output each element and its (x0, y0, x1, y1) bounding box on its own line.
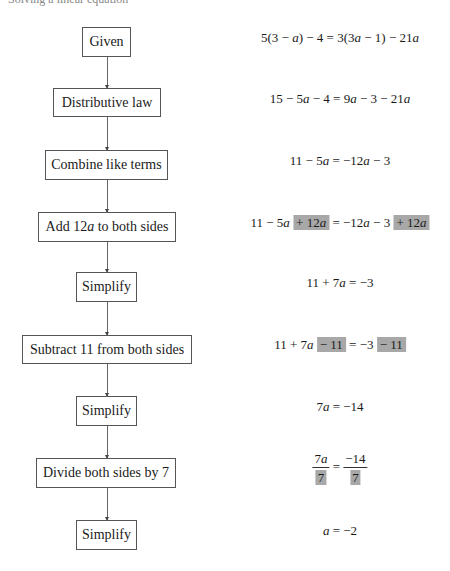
fraction: 7a7 (312, 451, 329, 486)
equation-step-5: 11 + 7a = −3 (306, 275, 373, 291)
step-label: Add 12a to both sides (46, 219, 169, 235)
flow-arrow (107, 488, 108, 520)
flow-arrow (107, 180, 108, 212)
equation-step-6: 11 + 7a − 11 = −3 − 11 (274, 337, 406, 353)
step-box-2: Distributive law (53, 88, 161, 117)
flow-arrow (107, 242, 108, 272)
cropped-header-text: Solving a linear equation (8, 0, 128, 7)
highlighted-term: + 12a (293, 215, 329, 230)
step-label: Simplify (82, 403, 131, 419)
equation-step-4: 11 − 5a + 12a = −12a − 3 + 12a (250, 215, 429, 231)
flow-arrow (107, 364, 108, 396)
step-box-6: Subtract 11 from both sides (22, 335, 192, 364)
step-label: Distributive law (62, 95, 153, 111)
step-label: Subtract 11 from both sides (30, 342, 184, 358)
step-box-3: Combine like terms (45, 150, 168, 180)
step-box-1: Given (82, 27, 131, 57)
highlighted-term: − 11 (317, 337, 346, 352)
equation-step-3: 11 − 5a = −12a − 3 (290, 153, 390, 169)
step-label: Simplify (82, 279, 131, 295)
equation-step-1: 5(3 − a) − 4 = 3(3a − 1) − 21a (261, 30, 419, 46)
step-label: Combine like terms (51, 157, 161, 173)
equation-step-9: a = −2 (323, 523, 357, 539)
step-box-9: Simplify (76, 520, 137, 550)
step-label: Given (89, 34, 123, 50)
flow-arrow (107, 426, 108, 458)
highlighted-term: 7 (316, 470, 327, 485)
step-box-8: Divide both sides by 7 (36, 458, 176, 488)
equation-step-7: 7a = −14 (316, 399, 363, 415)
step-box-4: Add 12a to both sides (38, 212, 176, 242)
step-box-7: Simplify (76, 396, 137, 426)
highlighted-term: + 12a (393, 215, 429, 230)
flow-arrow (107, 302, 108, 335)
flow-arrow (107, 57, 108, 88)
equation-step-2: 15 − 5a − 4 = 9a − 3 − 21a (270, 91, 411, 107)
fraction: −147 (343, 451, 367, 486)
flow-arrow (107, 117, 108, 150)
step-label: Divide both sides by 7 (43, 465, 169, 481)
highlighted-term: 7 (350, 470, 361, 485)
equation-step-8: 7a7 = −147 (312, 451, 367, 486)
step-box-5: Simplify (76, 272, 137, 302)
highlighted-term: − 11 (377, 337, 406, 352)
step-label: Simplify (82, 527, 131, 543)
